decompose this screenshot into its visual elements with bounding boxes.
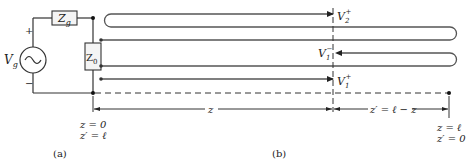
node-bottom (91, 91, 95, 95)
v1-minus-label: V1− (318, 45, 332, 62)
left-end-label-2: z′ = ℓ (79, 130, 106, 141)
z-label: z (207, 104, 214, 115)
right-end-label-2: z′ = 0 (436, 133, 466, 144)
source-plus: + (25, 25, 33, 36)
right-end-label-1: z = ℓ (436, 122, 461, 133)
source-minus: − (25, 78, 33, 89)
caption-a: (a) (53, 148, 67, 159)
source-label: Vg (4, 53, 18, 69)
v2-plus-label: V2+ (337, 8, 351, 25)
wave-path (101, 14, 457, 79)
caption-b: (b) (272, 148, 286, 159)
node-top (91, 16, 95, 20)
transmission-line-diagram: Zg Z0 + − Vg V2+ V1− V1+ z z′ = ℓ − z z … (0, 0, 471, 166)
zprime-label: z′ = ℓ − z (369, 104, 417, 115)
arrow-v1-minus (335, 50, 342, 56)
left-end-label-1: z = 0 (79, 119, 107, 130)
v1-plus-label: V1+ (337, 73, 351, 90)
node-end (447, 91, 451, 95)
